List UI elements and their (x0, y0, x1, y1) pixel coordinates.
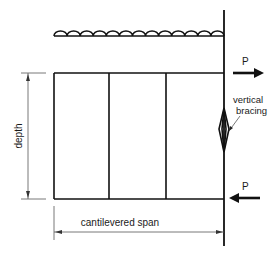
depth-dimension: depth (13, 73, 46, 199)
top-force-label: P (242, 56, 249, 67)
arrow-right-icon (254, 68, 264, 78)
truss (54, 73, 224, 199)
top-force-arrow: P (233, 56, 264, 78)
bracing-callout: vertical bracing (229, 94, 267, 131)
roof-deck (54, 31, 224, 36)
bracing-label-line2: bracing (236, 105, 267, 116)
depth-label: depth (13, 123, 24, 148)
span-dimension: cantilevered span (54, 206, 224, 240)
span-label: cantilevered span (81, 217, 159, 228)
bottom-force-arrow: P (229, 181, 260, 203)
diagram-canvas: vertical bracing P P depth cantilevered … (0, 0, 280, 259)
bottom-force-label: P (242, 181, 249, 192)
arrow-left-icon (229, 193, 239, 203)
bracing-label-line1: vertical (233, 94, 263, 105)
